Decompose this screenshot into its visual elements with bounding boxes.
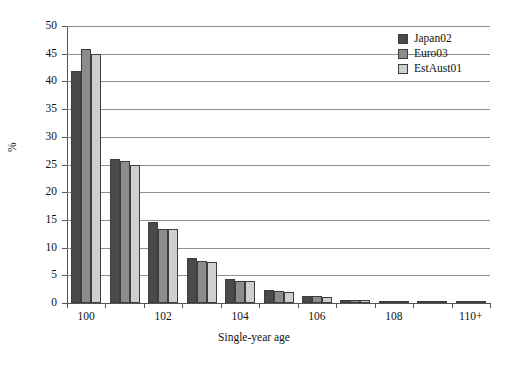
y-tick-label-50: 50	[25, 20, 57, 32]
bar-japan02-110+[interactable]	[456, 301, 466, 303]
bar-japan02-103[interactable]	[187, 258, 197, 303]
x-tick-5	[259, 303, 260, 308]
x-tick-label-102: 102	[140, 310, 186, 322]
x-tick-label-100: 100	[63, 310, 109, 322]
bar-euro03-107[interactable]	[350, 300, 360, 303]
bar-japan02-106[interactable]	[302, 296, 312, 303]
y-tick-label-15: 15	[25, 214, 57, 226]
x-tick-7	[336, 303, 337, 308]
y-tick-label-20: 20	[25, 186, 57, 198]
x-tick-label-104: 104	[217, 310, 263, 322]
y-tick-10	[62, 248, 67, 249]
y-tick-5	[62, 275, 67, 276]
x-tick-label-108: 108	[371, 310, 417, 322]
y-tick-label-10: 10	[25, 242, 57, 254]
y-tick-label-35: 35	[25, 103, 57, 115]
x-tick-4	[221, 303, 222, 308]
bar-estaust01-104[interactable]	[245, 281, 255, 303]
bar-japan02-108[interactable]	[379, 301, 389, 303]
bar-estaust01-108[interactable]	[399, 301, 409, 303]
y-tick-label-45: 45	[25, 48, 57, 60]
bar-estaust01-110+[interactable]	[476, 301, 486, 303]
legend-item-2[interactable]: EstAust01	[398, 61, 462, 76]
bar-group-100	[71, 26, 101, 303]
x-tick-label-106: 106	[294, 310, 340, 322]
bar-group-107	[340, 26, 370, 303]
legend-swatch-japan02	[398, 34, 408, 44]
bar-group-101	[110, 26, 140, 303]
y-tick-label-40: 40	[25, 75, 57, 87]
bar-euro03-105[interactable]	[274, 291, 284, 303]
x-tick-2	[144, 303, 145, 308]
bar-estaust01-107[interactable]	[360, 300, 370, 303]
x-tick-8	[375, 303, 376, 308]
bar-estaust01-102[interactable]	[168, 229, 178, 303]
y-tick-45	[62, 54, 67, 55]
x-tick-9	[413, 303, 414, 308]
y-tick-40	[62, 81, 67, 82]
bar-japan02-104[interactable]	[225, 279, 235, 303]
chart-figure: % 05101520253035404550 10010210410610811…	[0, 0, 508, 366]
bar-euro03-106[interactable]	[312, 296, 322, 303]
bar-estaust01-105[interactable]	[284, 292, 294, 303]
legend-label-euro03: Euro03	[414, 48, 448, 60]
x-axis-line	[67, 303, 491, 304]
y-axis-title: %	[6, 142, 18, 152]
y-tick-label-30: 30	[25, 131, 57, 143]
x-tick-11	[490, 303, 491, 308]
bar-japan02-109[interactable]	[417, 301, 427, 303]
bar-euro03-104[interactable]	[235, 281, 245, 303]
legend-swatch-euro03	[398, 49, 408, 59]
bar-estaust01-100[interactable]	[91, 54, 101, 303]
bar-group-104	[225, 26, 255, 303]
bar-estaust01-106[interactable]	[322, 297, 332, 303]
legend-item-1[interactable]: Euro03	[398, 46, 462, 61]
y-tick-label-25: 25	[25, 159, 57, 171]
x-tick-6	[298, 303, 299, 308]
bar-japan02-102[interactable]	[148, 222, 158, 303]
legend-label-estaust01: EstAust01	[414, 63, 462, 75]
x-tick-1	[105, 303, 106, 308]
bar-euro03-102[interactable]	[158, 229, 168, 303]
bar-estaust01-109[interactable]	[437, 301, 447, 303]
y-tick-label-0: 0	[25, 297, 57, 309]
bar-japan02-105[interactable]	[264, 290, 274, 303]
bar-estaust01-101[interactable]	[130, 165, 140, 304]
x-axis-title: Single-year age	[0, 331, 508, 343]
y-tick-30	[62, 137, 67, 138]
x-tick-0	[67, 303, 68, 308]
bar-group-103	[187, 26, 217, 303]
bar-euro03-103[interactable]	[197, 261, 207, 303]
bar-euro03-108[interactable]	[389, 301, 399, 303]
legend-item-0[interactable]: Japan02	[398, 31, 462, 46]
legend-label-japan02: Japan02	[414, 33, 452, 45]
x-tick-label-110+: 110+	[448, 310, 494, 322]
bar-japan02-107[interactable]	[340, 300, 350, 303]
legend-swatch-estaust01	[398, 64, 408, 74]
y-tick-20	[62, 192, 67, 193]
y-tick-15	[62, 220, 67, 221]
y-tick-label-5: 5	[25, 269, 57, 281]
x-tick-10	[452, 303, 453, 308]
bar-euro03-101[interactable]	[120, 161, 130, 303]
bar-estaust01-103[interactable]	[207, 262, 217, 303]
bar-group-105	[264, 26, 294, 303]
bar-group-106	[302, 26, 332, 303]
y-tick-35	[62, 109, 67, 110]
bar-japan02-101[interactable]	[110, 159, 120, 303]
bar-euro03-109[interactable]	[427, 301, 437, 303]
y-tick-25	[62, 165, 67, 166]
bar-group-102	[148, 26, 178, 303]
x-tick-3	[182, 303, 183, 308]
bar-euro03-100[interactable]	[81, 49, 91, 303]
bar-japan02-100[interactable]	[71, 71, 81, 303]
y-tick-50	[62, 26, 67, 27]
chart-legend: Japan02 Euro03 EstAust01	[398, 31, 462, 76]
bar-euro03-110+[interactable]	[466, 301, 476, 303]
